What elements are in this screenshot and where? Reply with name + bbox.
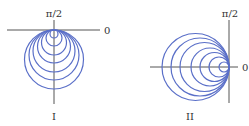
polar-circles-diagram: π/2 0 I π/2 0 II (0, 0, 249, 126)
figure-ii-caption: II (186, 111, 194, 122)
figure-i-label-zero: 0 (104, 25, 110, 36)
figure-ii-label-pi-over-2: π/2 (222, 8, 238, 19)
figure-i-label-pi-over-2: π/2 (46, 8, 62, 19)
figure-ii: π/2 0 II (150, 8, 248, 122)
figure-ii-label-zero: 0 (242, 62, 248, 73)
figure-i-caption: I (52, 111, 56, 122)
figure-i: π/2 0 I (7, 8, 110, 122)
